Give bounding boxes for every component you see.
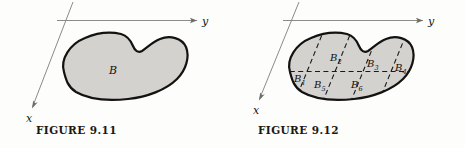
y-axis-label: y (201, 15, 209, 28)
region-label-b2-base: B (329, 52, 337, 63)
y-axis-label: y (427, 15, 435, 28)
region-label-b2-sub: 2 (337, 58, 342, 66)
region-label-b4-sub: 4 (402, 68, 407, 76)
figure-9-12-caption: FIGURE 9.12 (258, 124, 339, 136)
region-label-b5-sub: 5 (322, 85, 326, 93)
figure-9-12-panel: y x (233, 0, 465, 148)
figure-9-11-panel: y x B FIGURE 9.11 (0, 0, 232, 148)
region-b-blob (63, 33, 187, 100)
figure-page: y x B FIGURE 9.11 y (0, 0, 465, 148)
y-axis-9-12: y (283, 15, 435, 28)
x-axis-label: x (26, 112, 33, 125)
region-b-label: B (108, 64, 117, 77)
x-axis-line (260, 2, 300, 99)
region-label-b1-sub: 1 (302, 79, 306, 87)
x-axis-label: x (253, 104, 260, 117)
region-label-b3-sub: 3 (375, 64, 379, 72)
figure-9-11-graphic: y x B (0, 0, 232, 132)
figure-9-12-graphic: y x (233, 0, 465, 132)
region-label-b1-base: B (293, 73, 301, 84)
region-label-b3-base: B (366, 58, 374, 69)
region-label-b5-base: B (313, 79, 321, 90)
region-label-b4-base: B (394, 62, 402, 73)
figure-9-11-caption: FIGURE 9.11 (36, 124, 117, 136)
y-axis-9-11: y (57, 15, 209, 28)
region-label-b6-sub: 6 (359, 85, 363, 93)
region-label-b6-base: B (350, 79, 358, 90)
